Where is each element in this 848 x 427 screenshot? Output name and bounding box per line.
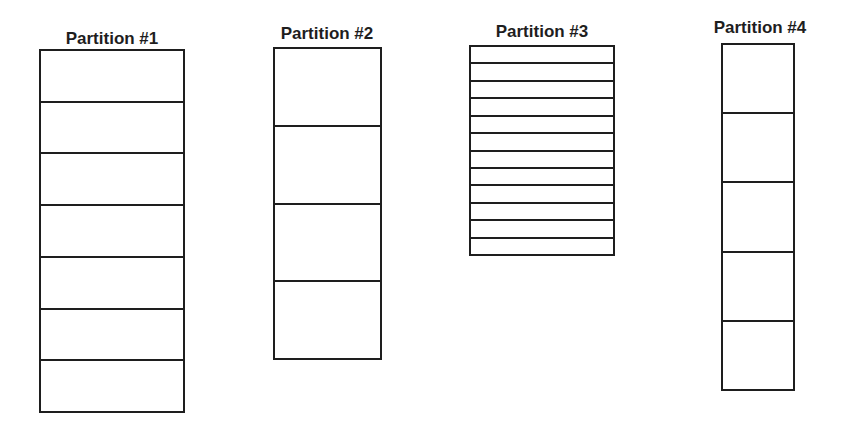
partition-cell xyxy=(275,125,380,203)
partition-cell xyxy=(275,280,380,358)
partition-cell xyxy=(471,115,613,132)
partition-cell xyxy=(723,45,793,112)
partition-title: Partition #1 xyxy=(38,29,186,49)
partition-title: Partition #2 xyxy=(270,24,384,44)
partition-box xyxy=(39,49,185,413)
partition-cell xyxy=(471,202,613,219)
partition-title: Partition #4 xyxy=(700,18,820,38)
partition-cell xyxy=(41,51,183,101)
partition-cell xyxy=(471,47,613,62)
partition-cell xyxy=(41,204,183,256)
partition-box xyxy=(721,43,795,391)
partition-cell xyxy=(471,150,613,167)
partition-title: Partition #3 xyxy=(468,22,616,42)
partition-cell xyxy=(723,251,793,320)
partition-4: Partition #4 xyxy=(700,0,820,427)
partition-box xyxy=(273,47,382,360)
partition-cell xyxy=(471,219,613,236)
partition-cell xyxy=(471,184,613,201)
partition-cell xyxy=(471,97,613,114)
partition-cell xyxy=(471,167,613,184)
partition-cell xyxy=(471,132,613,149)
partition-cell xyxy=(41,101,183,153)
partition-cell xyxy=(41,152,183,204)
partition-cell xyxy=(41,359,183,411)
partition-cell xyxy=(471,80,613,97)
partition-cell xyxy=(41,308,183,360)
partition-cell xyxy=(275,203,380,281)
partition-cell xyxy=(41,256,183,308)
partition-2: Partition #2 xyxy=(270,0,384,427)
partition-3: Partition #3 xyxy=(468,0,616,427)
partition-cell xyxy=(275,49,380,125)
partition-cell xyxy=(723,181,793,250)
partition-cell xyxy=(723,112,793,181)
partition-1: Partition #1 xyxy=(38,0,186,427)
partition-cell xyxy=(471,237,613,254)
partition-cell xyxy=(723,320,793,389)
partition-cell xyxy=(471,62,613,79)
partition-box xyxy=(469,45,615,256)
